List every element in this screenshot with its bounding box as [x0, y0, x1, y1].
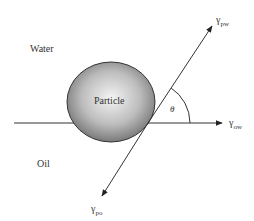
gamma-po-label: γpo: [90, 203, 103, 217]
oil-label: Oil: [37, 158, 50, 169]
contact-angle-diagram: Water Oil Particle θ γpw γow γpo: [0, 0, 254, 221]
theta-label: θ: [170, 104, 175, 114]
gamma-pw-label: γpw: [215, 14, 230, 28]
particle-label: Particle: [94, 95, 125, 106]
gamma-ow-label: γow: [228, 117, 243, 131]
gamma-pw-arrow: [148, 26, 212, 123]
water-label: Water: [30, 43, 54, 54]
